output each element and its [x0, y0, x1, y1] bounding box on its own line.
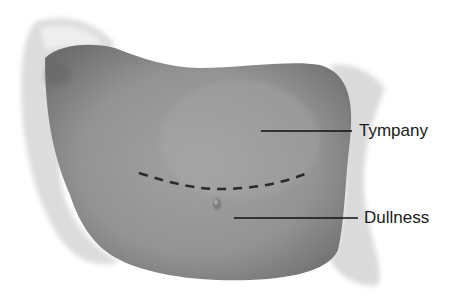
tympany-label: Tympany: [359, 122, 428, 139]
abdomen-illustration: [0, 0, 466, 296]
dullness-label: Dullness: [364, 209, 429, 226]
